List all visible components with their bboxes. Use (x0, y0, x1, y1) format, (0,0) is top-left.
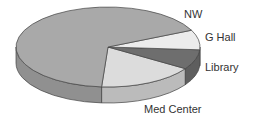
label-library: Library (205, 61, 239, 73)
label-med-center: Med Center (144, 103, 202, 115)
pie-chart: NW G Hall Library Med Center (0, 0, 253, 126)
label-nw: NW (184, 8, 203, 20)
label-g-hall: G Hall (205, 31, 236, 43)
